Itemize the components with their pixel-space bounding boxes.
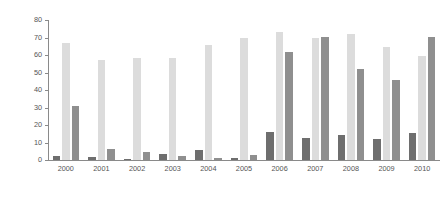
bar [169,58,177,160]
bar [62,43,70,160]
bar [178,156,186,160]
x-axis-tick-label: 2002 [119,164,155,173]
bar-group: 2004 [191,20,227,160]
bar [88,157,96,161]
bar [428,37,436,160]
bar [409,133,417,160]
bar [392,80,400,160]
y-axis-tick-label: 80 [22,15,42,24]
bar-group: 2009 [369,20,405,160]
bar [240,38,248,160]
x-axis-tick-label: 2000 [48,164,84,173]
bar [285,52,293,160]
y-axis-tick-mark [45,160,48,161]
x-axis-tick-label: 2005 [226,164,262,173]
bar-group: 2006 [262,20,298,160]
bar [205,45,213,160]
bar [133,58,141,160]
x-axis-tick-label: 2008 [333,164,369,173]
bar [266,132,274,160]
bar [302,138,310,160]
x-axis-tick-label: 2001 [84,164,120,173]
bar [312,38,320,161]
bar-group: 2001 [84,20,120,160]
y-axis-tick: 0 [48,160,440,161]
bar [143,152,151,160]
y-axis-tick-label: 30 [22,103,42,112]
bar [53,156,61,160]
bar [383,47,391,160]
bar [231,158,239,160]
bar [195,150,203,160]
bar [250,155,258,160]
x-axis-tick-label: 2003 [155,164,191,173]
bar [373,139,381,160]
bar [98,60,106,160]
bar [159,154,167,160]
y-axis-tick-label: 0 [22,155,42,164]
bar-group: 2010 [404,20,440,160]
bar [347,34,355,160]
bar [276,32,284,160]
x-axis-tick-label: 2010 [404,164,440,173]
y-axis-tick-label: 70 [22,33,42,42]
bar [338,135,346,160]
bar-group: 2002 [119,20,155,160]
y-axis-tick-label: 20 [22,120,42,129]
x-axis-tick-label: 2004 [191,164,227,173]
bar [72,106,80,160]
bar-group: 2008 [333,20,369,160]
bar [214,158,222,160]
y-axis-tick-label: 50 [22,68,42,77]
x-axis-tick-label: 2007 [297,164,333,173]
y-axis-tick-label: 10 [22,138,42,147]
bar-group: 2007 [297,20,333,160]
bar-group: 2005 [226,20,262,160]
bar-group: 2000 [48,20,84,160]
bar [357,69,365,160]
bar [321,37,329,160]
x-axis-tick-label: 2009 [369,164,405,173]
bar [107,149,115,160]
bar [124,159,132,160]
bar [418,56,426,160]
bar-group: 2003 [155,20,191,160]
plot-area: 0102030405060708020002001200220032004200… [48,20,440,160]
bar-chart: % energy/total imports from region 01020… [0,0,448,198]
y-axis-tick-label: 60 [22,50,42,59]
x-axis-tick-label: 2006 [262,164,298,173]
y-axis-tick-label: 40 [22,85,42,94]
